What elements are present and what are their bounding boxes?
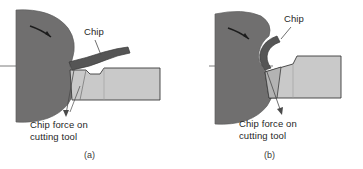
panel-b-drawing: [181, 0, 363, 169]
chip-force-arrow-head: [277, 107, 283, 115]
chip-leader-line: [95, 40, 101, 55]
chip-label: Chip: [284, 13, 304, 25]
panel-a: Chip Chip force on cutting tool (a): [0, 0, 181, 169]
chip-force-arrow-head: [63, 110, 69, 117]
chip-force-label: Chip force on cutting tool: [239, 118, 297, 141]
chip-leader-line: [281, 27, 291, 39]
chip-force-label-line-2: cutting tool: [30, 131, 88, 143]
chip-force-label-line-1: Chip force on: [239, 118, 297, 130]
workpiece: [16, 10, 74, 122]
chip-force-label-line-2: cutting tool: [239, 130, 297, 142]
chip-force-label: Chip force on cutting tool: [30, 119, 88, 142]
panel-b: Chip Chip force on cutting tool (b): [181, 0, 362, 169]
panel-a-caption: (a): [84, 150, 95, 160]
chip-label: Chip: [84, 26, 104, 38]
panel-b-caption: (b): [264, 150, 275, 160]
cutting-tool-chip-force-figure: Chip Chip force on cutting tool (a): [0, 0, 363, 169]
chip-force-label-line-1: Chip force on: [30, 119, 88, 131]
